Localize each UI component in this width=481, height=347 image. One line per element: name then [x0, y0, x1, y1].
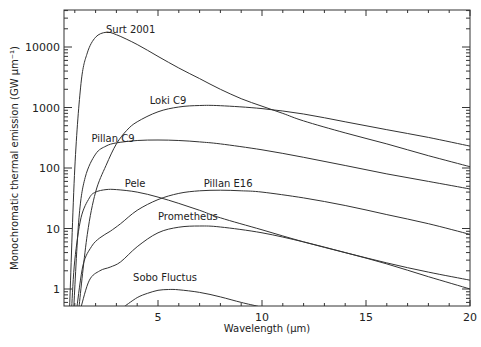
curve-surt-2001 — [70, 32, 470, 307]
curve-sobo-fluctus — [125, 289, 258, 306]
x-tick-label: 20 — [463, 311, 477, 324]
curve-label-prometheus: Prometheus — [158, 211, 218, 222]
curve-prometheus — [81, 226, 470, 307]
y-tick-label: 10000 — [25, 41, 60, 54]
y-tick-label: 1000 — [32, 102, 60, 115]
curve-pillan-e16 — [77, 190, 470, 307]
y-tick-label: 1 — [53, 283, 60, 296]
x-tick-label: 5 — [155, 311, 162, 324]
x-axis-label: Wavelength (µm) — [224, 323, 311, 334]
plot-frame — [64, 10, 470, 306]
x-tick-label: 15 — [359, 311, 373, 324]
ticks-layer: 5101520110100100010000 — [25, 10, 477, 324]
chart: Surt 2001Loki C9Pillan C9PelePillan E16P… — [0, 0, 481, 347]
y-tick-label: 100 — [39, 162, 60, 175]
curve-labels-layer: Surt 2001Loki C9Pillan C9PelePillan E16P… — [91, 24, 252, 283]
curve-label-pillan-c9: Pillan C9 — [91, 133, 134, 144]
curve-label-pele: Pele — [125, 178, 146, 189]
curve-label-sobo-fluctus: Sobo Fluctus — [133, 272, 197, 283]
curve-label-loki-c9: Loki C9 — [150, 95, 187, 106]
y-axis-label: Monochromatic thermal emission (GW µm⁻¹) — [9, 46, 20, 270]
y-tick-label: 10 — [46, 223, 60, 236]
curve-pele — [72, 189, 470, 307]
curve-label-pillan-e16: Pillan E16 — [204, 178, 253, 189]
curves-layer — [70, 32, 470, 307]
curve-label-surt-2001: Surt 2001 — [106, 24, 155, 35]
